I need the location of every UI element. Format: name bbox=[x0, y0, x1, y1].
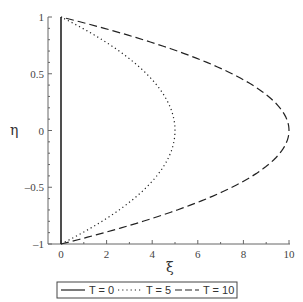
x-axis-label: ξ bbox=[166, 259, 174, 275]
x-tick-label: 4 bbox=[149, 248, 155, 260]
x-tick-label: 0 bbox=[58, 248, 64, 260]
series-dotted-line bbox=[61, 17, 175, 244]
chart-canvas: 10.50–0.5–1 0246810 η ξ T = 0 T = 5 T = … bbox=[0, 0, 303, 302]
plot-series bbox=[61, 17, 289, 244]
y-tick-label: 0.5 bbox=[30, 68, 44, 80]
y-axis-label: η bbox=[10, 122, 18, 138]
legend: T = 0 T = 5 T = 10 bbox=[57, 282, 237, 298]
y-tick-label: –0.5 bbox=[24, 181, 45, 193]
y-tick-label: 1 bbox=[39, 11, 45, 23]
x-axis: 0246810 bbox=[48, 240, 295, 260]
y-tick-label: 0 bbox=[39, 125, 45, 137]
x-tick-label: 8 bbox=[241, 248, 247, 260]
x-tick-label: 10 bbox=[284, 248, 296, 260]
y-tick-label: –1 bbox=[32, 238, 44, 250]
legend-label-t0: T = 0 bbox=[89, 284, 114, 296]
legend-label-t10: T = 10 bbox=[203, 284, 234, 296]
x-tick-label: 2 bbox=[104, 248, 110, 260]
y-axis: 10.50–0.5–1 bbox=[24, 11, 52, 250]
legend-label-t5: T = 5 bbox=[146, 284, 171, 296]
x-tick-label: 6 bbox=[195, 248, 201, 260]
